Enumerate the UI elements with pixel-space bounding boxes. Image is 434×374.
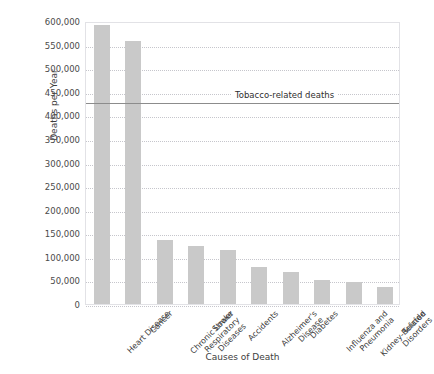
- plot-area: Tobacco-related deaths: [85, 22, 400, 305]
- bar: [94, 25, 110, 304]
- bar: [220, 250, 236, 304]
- x-axis-title: Causes of Death: [85, 352, 400, 362]
- y-axis-tick-label: 550,000: [0, 41, 87, 51]
- y-axis-tick-label: 200,000: [0, 206, 87, 216]
- y-axis-tick-label: 600,000: [0, 17, 87, 27]
- x-axis-tick-label: Accidents: [246, 309, 280, 343]
- bar: [377, 287, 393, 304]
- y-axis-title: Deaths per Year: [49, 45, 59, 165]
- y-axis-tick-label: 400,000: [0, 111, 87, 121]
- y-axis-tick-label: 50,000: [0, 276, 87, 286]
- bar: [314, 280, 330, 304]
- tobacco-reference-label: Tobacco-related deaths: [232, 90, 337, 100]
- y-axis-tick-label: 250,000: [0, 182, 87, 192]
- bar: [346, 282, 362, 304]
- bar: [125, 41, 141, 304]
- bar: [188, 246, 204, 304]
- tobacco-reference-line: [86, 103, 399, 104]
- cropped-title-sliver: [0, 0, 429, 4]
- y-axis-tick-label: 300,000: [0, 159, 87, 169]
- bar: [157, 240, 173, 304]
- gridline: [86, 306, 399, 307]
- y-axis-tick-label: 0: [0, 300, 87, 310]
- y-axis-tick-label: 100,000: [0, 253, 87, 263]
- bar: [251, 267, 267, 304]
- y-axis-tick-label: 450,000: [0, 88, 87, 98]
- y-axis-tick-label: 150,000: [0, 229, 87, 239]
- y-axis-tick-label: 350,000: [0, 135, 87, 145]
- bar: [283, 272, 299, 304]
- y-axis-tick-label: 500,000: [0, 64, 87, 74]
